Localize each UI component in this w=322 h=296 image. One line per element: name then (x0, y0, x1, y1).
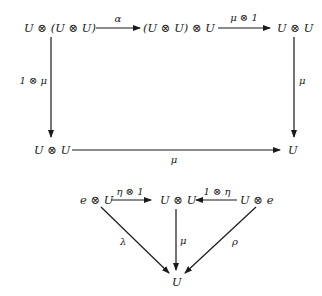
label-eta-tensor-one: η ⊗ 1 (116, 186, 143, 198)
node-u-bottom: U (172, 276, 182, 288)
node-u-tensor-u-bottom: U ⊗ U (34, 144, 70, 156)
label-lambda: λ (120, 236, 126, 248)
label-alpha: α (115, 13, 122, 25)
node-u-tensor-uu: U ⊗ (U ⊗ U) (24, 22, 96, 34)
label-mu: μ (180, 235, 187, 247)
label-bottom-mu: μ (171, 154, 178, 166)
node-u-bottom-right: U (288, 144, 298, 156)
arrow-rho (185, 207, 256, 273)
label-right-mu: μ (299, 75, 306, 87)
node-u-tensor-u-center: U ⊗ U (160, 194, 196, 206)
node-uu-tensor-u: (U ⊗ U) ⊗ U (143, 22, 215, 34)
label-mu-tensor-one: μ ⊗ 1 (230, 12, 258, 24)
node-u-tensor-u-top: U ⊗ U (277, 22, 313, 34)
node-e-tensor-u: e ⊗ U (80, 194, 113, 206)
label-one-tensor-eta: 1 ⊗ η (203, 186, 230, 198)
arrow-lambda (101, 207, 169, 273)
label-rho: ρ (232, 236, 238, 248)
label-one-tensor-mu: 1 ⊗ μ (19, 75, 47, 87)
node-u-tensor-e: U ⊗ e (240, 194, 273, 206)
